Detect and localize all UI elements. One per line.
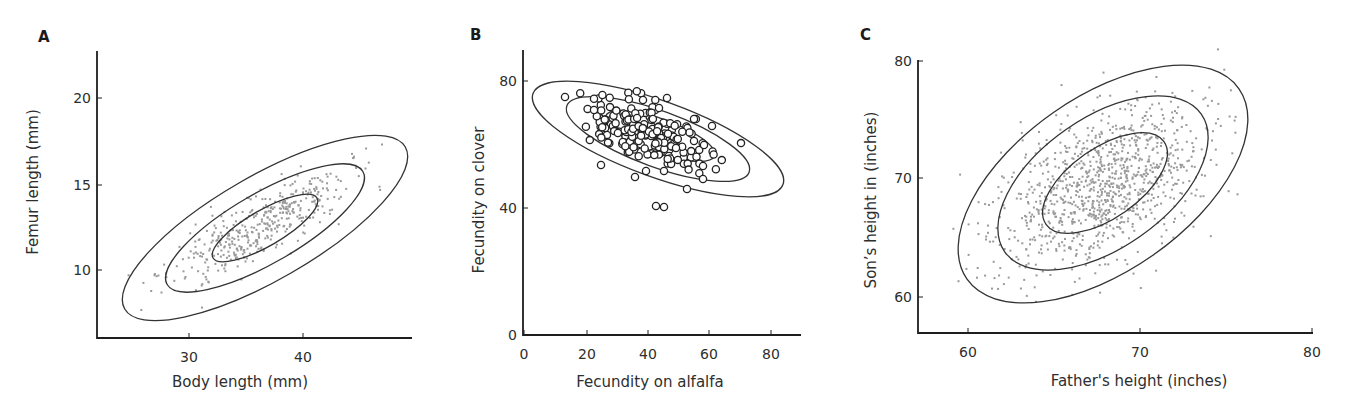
data-point: [330, 173, 332, 175]
data-point: [1193, 150, 1195, 152]
data-point: [1127, 218, 1129, 220]
data-point: [345, 188, 347, 190]
data-point: [1117, 158, 1119, 160]
data-point: [1120, 177, 1122, 179]
data-point: [255, 245, 257, 247]
data-point: [241, 236, 243, 238]
data-point: [1215, 149, 1217, 151]
data-point: [247, 232, 249, 234]
data-point: [303, 188, 305, 190]
data-point: [1124, 170, 1126, 172]
axis-frame: [918, 60, 1313, 333]
data-point: [317, 177, 319, 179]
data-point: [1046, 139, 1048, 141]
data-point: [1066, 173, 1068, 175]
data-point: [1120, 184, 1122, 186]
data-point: [1135, 144, 1137, 146]
data-point: [1092, 247, 1094, 249]
data-point: [634, 114, 641, 121]
data-point: [1060, 152, 1062, 154]
data-point: [1161, 242, 1163, 244]
data-point: [1041, 192, 1043, 194]
data-point: [683, 185, 690, 192]
data-point: [1104, 185, 1106, 187]
data-point: [337, 179, 339, 181]
data-point: [156, 275, 158, 277]
data-point: [1171, 189, 1173, 191]
data-point: [1041, 226, 1043, 228]
data-point: [1207, 105, 1209, 107]
data-point: [1078, 196, 1080, 198]
data-point: [1170, 147, 1172, 149]
data-point: [245, 229, 247, 231]
data-point: [1147, 140, 1149, 142]
data-point: [1173, 132, 1175, 134]
data-point: [1137, 251, 1139, 253]
data-point: [1123, 221, 1125, 223]
data-point: [1097, 191, 1099, 193]
data-point: [228, 243, 230, 245]
data-point: [1177, 149, 1179, 151]
data-point: [217, 245, 219, 247]
data-point: [1018, 193, 1020, 195]
data-point: [1033, 207, 1035, 209]
data-point: [1220, 125, 1222, 127]
data-point: [191, 267, 193, 269]
data-point: [1142, 188, 1144, 190]
data-point: [1074, 166, 1076, 168]
data-point: [173, 280, 175, 282]
data-point: [1037, 184, 1039, 186]
data-point: [1234, 120, 1236, 122]
data-point: [664, 130, 671, 137]
data-point: [262, 230, 264, 232]
data-point: [1154, 205, 1156, 207]
y-tick-label: 15: [73, 177, 91, 193]
data-point: [1171, 144, 1173, 146]
data-point: [1237, 193, 1239, 195]
data-point: [1075, 145, 1077, 147]
data-point: [379, 186, 381, 188]
data-point: [1113, 205, 1115, 207]
data-point: [1025, 248, 1027, 250]
data-point: [1136, 139, 1138, 141]
data-point: [1073, 158, 1075, 160]
data-point: [1036, 274, 1038, 276]
x-tick-label: 80: [762, 346, 780, 362]
data-point: [1114, 178, 1116, 180]
data-point: [199, 255, 201, 257]
data-point: [1145, 216, 1147, 218]
data-point: [1089, 190, 1091, 192]
axis-frame: [523, 50, 801, 335]
data-point: [1003, 177, 1005, 179]
data-point: [1047, 171, 1049, 173]
probability-ellipses: [917, 18, 1289, 351]
data-point: [1050, 231, 1052, 233]
data-point: [1028, 228, 1030, 230]
data-point: [1137, 99, 1139, 101]
data-point: [1107, 237, 1109, 239]
data-point: [1116, 219, 1118, 221]
data-point: [221, 264, 223, 266]
data-point: [326, 187, 328, 189]
data-point: [231, 243, 233, 245]
data-point: [1170, 172, 1172, 174]
data-point: [1230, 89, 1232, 91]
data-point: [333, 196, 335, 198]
data-point: [1181, 164, 1183, 166]
data-point: [1129, 159, 1131, 161]
data-point: [1029, 163, 1031, 165]
data-point: [1025, 154, 1027, 156]
data-point: [1231, 152, 1233, 154]
data-point: [261, 218, 263, 220]
data-point: [1064, 201, 1066, 203]
data-point: [1109, 225, 1111, 227]
data-point: [217, 237, 219, 239]
data-point: [1211, 140, 1213, 142]
data-point: [1026, 295, 1028, 297]
data-point: [1032, 192, 1034, 194]
data-point: [1126, 174, 1128, 176]
data-point: [577, 90, 584, 97]
data-point: [1108, 195, 1110, 197]
data-point: [1081, 203, 1083, 205]
data-point: [1041, 252, 1043, 254]
